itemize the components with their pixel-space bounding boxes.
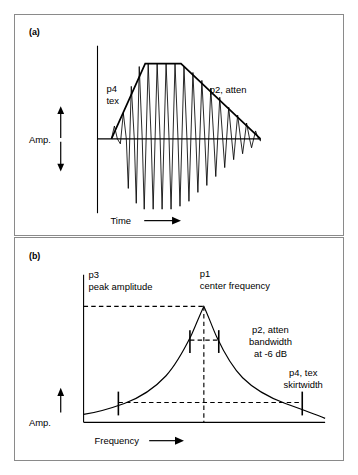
panel-a-annotation-p4tex: p4 tex <box>106 83 119 106</box>
panel-b-amp-label: Amp. <box>29 417 51 428</box>
figure-root: (a) Amp. p4 tex p2, atten <box>0 0 358 475</box>
panel-a-plot: (a) Amp. p4 tex p2, atten <box>15 15 343 235</box>
svg-text:p4: p4 <box>106 83 116 94</box>
svg-text:center frequency: center frequency <box>200 280 270 291</box>
panel-a: (a) Amp. p4 tex p2, atten <box>14 14 344 236</box>
svg-text:at -6 dB: at -6 dB <box>254 348 287 359</box>
panel-a-time-label: Time <box>110 215 131 226</box>
panel-b-label: (b) <box>29 251 40 261</box>
panel-b-annotation-p2: p2, atten bandwidth at -6 dB <box>249 324 292 359</box>
panel-a-amp-label: Amp. <box>29 134 51 145</box>
panel-a-label: (a) <box>29 27 40 37</box>
svg-text:p1: p1 <box>200 268 210 279</box>
panel-b: (b) Amp. <box>14 237 344 461</box>
svg-text:skirtwidth: skirtwidth <box>284 379 323 390</box>
panel-a-amp-arrow <box>57 106 64 171</box>
panel-b-annotation-p3: p3 peak amplitude <box>89 269 153 292</box>
panel-a-time-arrow <box>144 217 181 225</box>
svg-text:p4, tex: p4, tex <box>289 367 318 378</box>
panel-b-frequency-label: Frequency <box>95 435 140 446</box>
svg-text:peak amplitude: peak amplitude <box>89 281 153 292</box>
svg-text:bandwidth: bandwidth <box>249 336 292 347</box>
svg-text:p2, atten: p2, atten <box>252 324 289 335</box>
panel-b-annotation-p4: p4, tex skirtwidth <box>284 367 323 390</box>
panel-b-frequency-arrow <box>149 437 184 445</box>
panel-a-annotation-p2atten: p2, atten <box>210 84 247 95</box>
panel-b-amp-arrow <box>57 388 64 413</box>
panel-b-annotation-p1: p1 center frequency <box>200 268 270 291</box>
svg-text:p3: p3 <box>89 269 99 280</box>
svg-text:tex: tex <box>106 95 119 106</box>
panel-b-plot: (b) Amp. <box>15 238 343 460</box>
